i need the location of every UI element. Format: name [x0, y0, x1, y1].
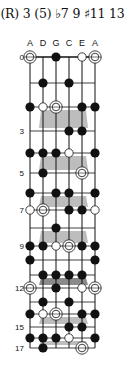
open-note-circle	[26, 206, 34, 214]
position-shade	[39, 231, 88, 243]
open-note-circle	[52, 242, 60, 250]
filled-note-dot	[51, 283, 60, 292]
filled-note-dot	[77, 102, 86, 111]
filled-note-dot	[77, 126, 86, 135]
filled-note-dot	[90, 102, 99, 111]
filled-note-dot	[90, 309, 99, 318]
filled-note-dot	[64, 297, 73, 306]
filled-note-dot	[38, 333, 47, 342]
filled-note-dot	[51, 148, 60, 157]
fret-number-label: 15	[15, 323, 24, 332]
filled-note-dot	[51, 188, 60, 197]
fret-number-label: 12	[15, 284, 24, 293]
filled-note-dot	[25, 255, 34, 264]
root-double-circle	[37, 204, 49, 216]
string-name-label: D	[40, 38, 47, 48]
filled-note-dot	[38, 78, 47, 87]
filled-note-dot	[77, 322, 86, 331]
fret-number-label: 9	[20, 242, 25, 251]
root-double-circle	[76, 167, 88, 179]
root-double-circle	[89, 282, 101, 294]
filled-note-dot	[25, 148, 34, 157]
string-name-label: E	[79, 38, 85, 48]
open-note-circle	[91, 206, 99, 214]
root-double-circle	[50, 308, 62, 320]
filled-note-dot	[25, 102, 34, 111]
filled-note-dot	[25, 241, 34, 250]
open-note-circle	[65, 334, 73, 342]
filled-note-dot	[77, 205, 86, 214]
filled-note-dot	[77, 309, 86, 318]
filled-note-dot	[25, 333, 34, 342]
root-double-circle	[63, 240, 75, 252]
filled-note-dot	[51, 333, 60, 342]
filled-note-dot	[25, 309, 34, 318]
filled-note-dot	[64, 322, 73, 331]
filled-note-dot	[51, 270, 60, 279]
open-note-circle	[65, 149, 73, 157]
filled-note-dot	[64, 270, 73, 279]
filled-note-dot	[25, 188, 34, 197]
filled-note-dot	[38, 148, 47, 157]
root-double-circle	[89, 51, 101, 63]
filled-note-dot	[38, 168, 47, 177]
fret-number-label: 7	[20, 206, 25, 215]
root-double-circle	[76, 342, 88, 354]
filled-note-dot	[38, 297, 47, 306]
position-shade	[39, 110, 88, 128]
filled-note-dot	[38, 241, 47, 250]
filled-note-dot	[90, 241, 99, 250]
filled-note-dot	[77, 270, 86, 279]
filled-note-dot	[90, 188, 99, 197]
fretboard-diagram: ADGCEA03579121517	[0, 0, 125, 382]
root-double-circle	[50, 101, 62, 113]
fret-number-label: 3	[20, 127, 25, 136]
filled-note-dot	[64, 205, 73, 214]
fret-number-label: 5	[20, 169, 25, 178]
open-note-circle	[78, 284, 86, 292]
filled-note-dot	[38, 343, 47, 352]
filled-note-dot	[51, 52, 60, 61]
fret-number-label: 17	[15, 344, 24, 353]
filled-note-dot	[64, 188, 73, 197]
string-name-label: A	[92, 38, 98, 48]
filled-note-dot	[90, 255, 99, 264]
filled-note-dot	[77, 241, 86, 250]
open-note-circle	[78, 53, 86, 61]
filled-note-dot	[38, 270, 47, 279]
open-note-circle	[39, 103, 47, 111]
filled-note-dot	[51, 223, 60, 232]
string-name-label: A	[27, 38, 33, 48]
open-note-circle	[39, 310, 47, 318]
filled-note-dot	[64, 126, 73, 135]
filled-note-dot	[90, 148, 99, 157]
string-name-label: G	[52, 38, 59, 48]
root-double-circle	[24, 282, 36, 294]
filled-note-dot	[90, 333, 99, 342]
string-name-label: C	[66, 38, 73, 48]
root-double-circle	[24, 51, 36, 63]
filled-note-dot	[64, 78, 73, 87]
